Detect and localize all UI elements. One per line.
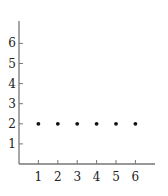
scatter-chart: 123456 123456: [0, 0, 168, 196]
axes: [19, 21, 155, 164]
data-points: [37, 122, 138, 126]
x-tick-label: 5: [112, 170, 120, 184]
y-tick-label: 1: [8, 137, 16, 151]
y-tick-label: 4: [8, 77, 16, 91]
data-point: [95, 122, 99, 126]
x-tick-label: 2: [54, 170, 62, 184]
data-point: [114, 122, 118, 126]
data-point: [37, 122, 41, 126]
y-tick-label: 6: [8, 36, 16, 50]
x-tick-label: 1: [35, 170, 43, 184]
data-point: [75, 122, 79, 126]
y-tick-label: 3: [8, 97, 16, 111]
x-tick-label: 3: [73, 170, 81, 184]
data-point: [56, 122, 60, 126]
y-tick-label: 2: [8, 117, 16, 131]
x-tick-label: 6: [132, 170, 140, 184]
x-tick-label: 4: [93, 170, 101, 184]
data-point: [134, 122, 138, 126]
y-tick-label: 5: [8, 57, 16, 71]
y-axis-ticks: 123456: [8, 36, 23, 150]
